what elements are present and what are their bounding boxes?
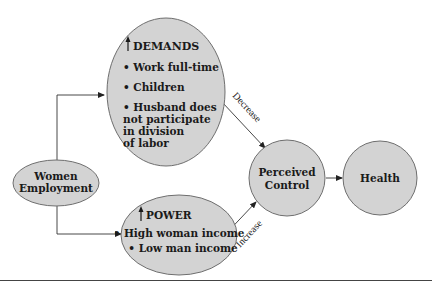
edge-demands-to-control: Decrease (222, 90, 265, 148)
power-item-high-woman-income: • High woman income (114, 227, 245, 239)
health-label: Health (360, 172, 400, 184)
demands-item-children: • Children (123, 81, 185, 93)
perceived-control-line-2: Control (265, 179, 309, 191)
demands-item-husband-3: in division (123, 125, 185, 137)
demands-title: DEMANDS (133, 40, 199, 53)
edge-employment-to-power (57, 206, 121, 234)
node-demands: DEMANDS • Work full-time • Children • Hu… (107, 18, 225, 166)
node-health: Health (343, 141, 417, 215)
women-employment-line-2: Employment (19, 182, 93, 194)
demands-item-husband-2: not participate (123, 113, 211, 125)
node-power: POWER • High woman income • Low man inco… (114, 195, 245, 275)
diagram-canvas: Decrease Increase DEMANDS • Work full-ti… (0, 0, 432, 283)
demands-item-husband-4: of labor (123, 137, 169, 149)
node-women-employment: Women Employment (13, 160, 99, 206)
power-item-low-man-income: • Low man income (128, 242, 238, 254)
demands-item-husband-1: • Husband does (123, 101, 217, 113)
node-perceived-control: Perceived Control (249, 140, 325, 216)
perceived-control-line-1: Perceived (258, 166, 316, 178)
women-employment-line-1: Women (33, 170, 78, 182)
edge-label-decrease: Decrease (231, 90, 264, 125)
power-title: POWER (146, 209, 192, 221)
edge-employment-to-demands (57, 95, 104, 160)
demands-item-work: • Work full-time (123, 61, 219, 73)
